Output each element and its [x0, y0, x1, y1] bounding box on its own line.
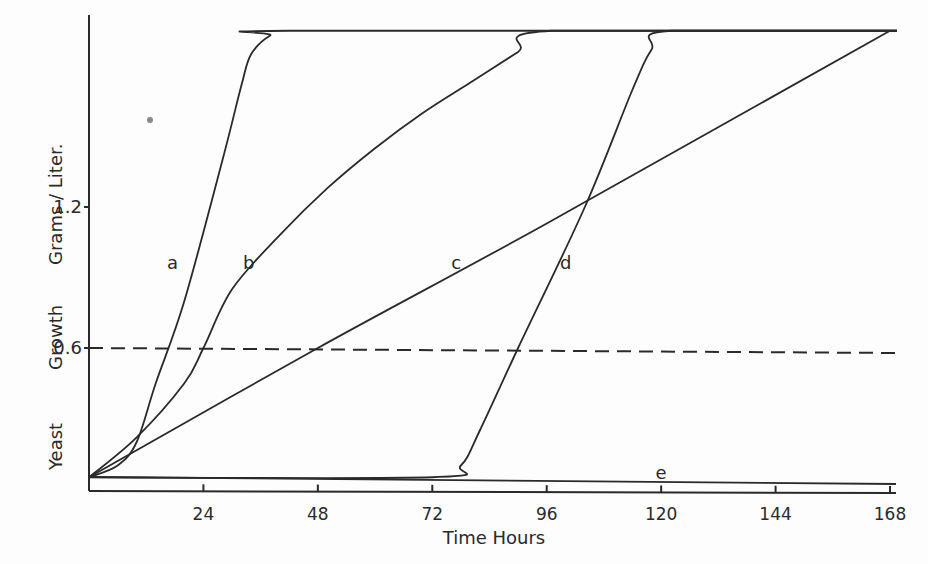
curve-label-d: d	[560, 252, 571, 273]
curve-d	[89, 31, 897, 478]
curve-label-b: b	[243, 252, 254, 273]
x-axis-title: Time Hours	[442, 527, 546, 548]
curve-label-c: c	[451, 252, 461, 273]
speck-artifact	[147, 117, 153, 123]
x-tick-label: 48	[307, 504, 329, 524]
curve-label-a: a	[167, 252, 178, 273]
curve-a	[89, 31, 897, 478]
curve-b	[89, 31, 897, 478]
reference-line-0.6	[89, 348, 896, 353]
x-ticks: 24487296120144168	[193, 484, 907, 524]
curve-e	[89, 477, 896, 484]
curve-labels: abcde	[167, 252, 667, 482]
y-axis-title-part-3: Grams / Liter.	[45, 144, 66, 265]
y-axis-title: Yeast Growth Grams / Liter.	[45, 144, 66, 471]
curve-label-e: e	[656, 462, 667, 483]
x-tick-label: 168	[874, 504, 906, 524]
x-tick-label: 96	[536, 504, 558, 524]
x-tick-label: 24	[193, 504, 215, 524]
dashed-line	[89, 348, 896, 353]
x-tick-label: 144	[759, 504, 791, 524]
x-tick-label: 120	[645, 504, 677, 524]
y-axis-title-part-2: Growth	[45, 305, 66, 370]
y-axis-title-part-1: Yeast	[45, 423, 66, 471]
x-tick-label: 72	[421, 504, 443, 524]
growth-chart: 24487296120144168 0.61.2 abcde Time Hour…	[0, 0, 928, 564]
series-group	[89, 31, 897, 484]
